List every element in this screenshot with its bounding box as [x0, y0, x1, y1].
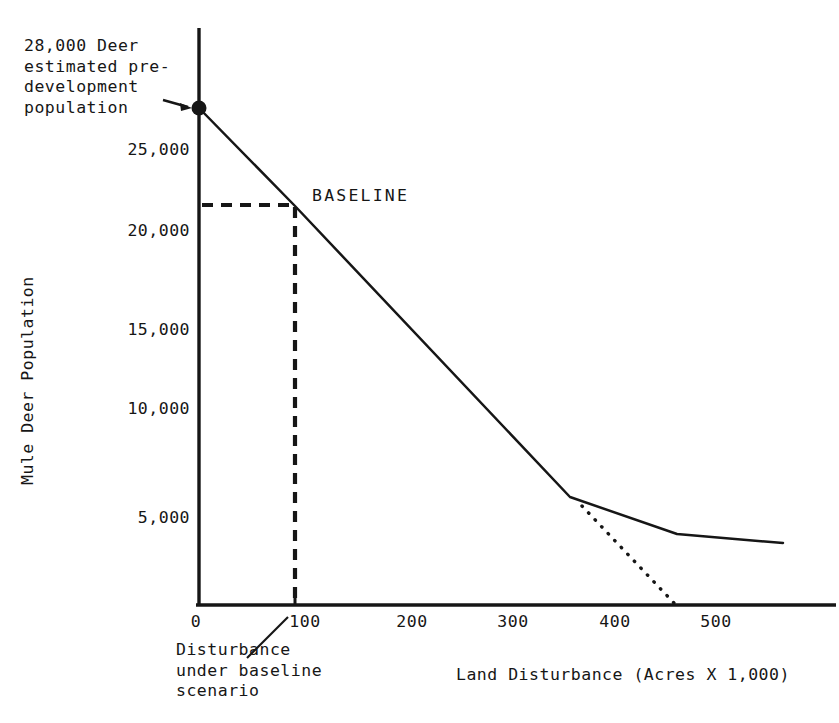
y-tick-label-10000: 10,000 [98, 399, 190, 420]
annotation-disturbance-callout: Disturbance under baseline scenario [176, 640, 322, 702]
x-tick-label-400: 400 [587, 612, 643, 633]
y-tick-label-20000: 20,000 [98, 221, 190, 242]
x-axis-title: Land Disturbance (Acres X 1,000) [456, 665, 790, 686]
mule-deer-population-chart: 28,000 Deer estimated pre- development p… [0, 0, 839, 723]
x-tick-label-200: 200 [384, 612, 440, 633]
baseline-indicator-dashed-line [202, 205, 295, 604]
y-tick-label-15000: 15,000 [98, 320, 190, 341]
x-tick-label-0: 0 [168, 612, 224, 633]
annotation-pre-development-population: 28,000 Deer estimated pre- development p… [24, 36, 170, 118]
pre-development-population-marker [192, 101, 207, 116]
population-response-line [199, 108, 783, 543]
x-tick-label-500: 500 [688, 612, 744, 633]
y-tick-label-25000: 25,000 [98, 140, 190, 161]
y-axis-title: Mule Deer Population [18, 285, 39, 485]
x-tick-label-100: 100 [277, 612, 333, 633]
x-tick-label-300: 300 [485, 612, 541, 633]
annotation-baseline-label: BASELINE [312, 186, 409, 207]
projection-dotted-line [582, 506, 674, 603]
y-tick-label-5000: 5,000 [98, 508, 190, 529]
